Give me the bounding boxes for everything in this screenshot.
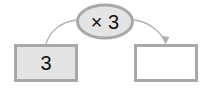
arrow-operator-to-output [134, 20, 165, 42]
function-machine-diagram: 3 × 3 [0, 0, 208, 89]
arrow-input-to-operator [46, 20, 76, 44]
output-box[interactable] [136, 46, 197, 81]
arrowhead-icon [161, 36, 169, 45]
function-machine-canvas: 3 × 3 [0, 0, 208, 89]
input-box-label: 3 [40, 52, 51, 74]
operator-label: × 3 [91, 11, 119, 33]
